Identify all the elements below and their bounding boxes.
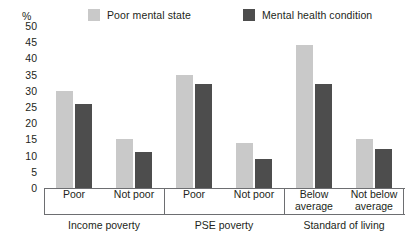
bar-0-0: [56, 91, 73, 188]
legend-label-1: Mental health condition: [262, 9, 372, 21]
group-label-1: PSE poverty: [164, 219, 284, 231]
legend-swatch-icon-1: [243, 9, 255, 21]
group-separator-1: [164, 188, 165, 215]
category-label-line1-1: Not poor: [104, 189, 164, 201]
bar-0-2: [176, 75, 193, 188]
x-axis-group-labels: Income povertyPSE povertyStandard of liv…: [44, 219, 405, 239]
x-axis-category-labels: PoorNot poorPoorNot poorBelowaverageNot …: [44, 189, 405, 215]
category-label-5: Not belowaverage: [344, 189, 404, 212]
bar-0-5: [356, 139, 373, 188]
bar-1-5: [375, 149, 392, 188]
legend-item-poor-mental-state: Poor mental state: [88, 9, 191, 21]
bar-0-1: [116, 139, 133, 188]
bar-1-2: [195, 84, 212, 188]
chart-legend: Poor mental state Mental health conditio…: [88, 9, 372, 21]
category-label-line1-5: Not below: [344, 189, 404, 201]
y-tick-label-10: 10: [25, 150, 37, 162]
category-label-line1-3: Not poor: [224, 189, 284, 201]
legend-item-mental-health-condition: Mental health condition: [243, 9, 372, 21]
y-tick-label-40: 40: [25, 52, 37, 64]
y-axis-tick-labels: 50454035302520151050: [0, 0, 44, 252]
legend-swatch-icon-0: [88, 9, 100, 21]
y-tick-label-5: 5: [31, 166, 37, 178]
bar-0-4: [296, 45, 313, 188]
y-tick-label-35: 35: [25, 69, 37, 81]
plot-area: [44, 26, 404, 188]
bar-1-1: [135, 152, 152, 188]
y-tick-label-30: 30: [25, 85, 37, 97]
category-label-4: Belowaverage: [284, 189, 344, 212]
bars-layer: [44, 26, 404, 188]
group-label-2: Standard of living: [284, 219, 404, 231]
y-tick-label-25: 25: [25, 101, 37, 113]
group-separator-2: [284, 188, 285, 215]
category-label-2: Poor: [164, 189, 224, 201]
y-tick-label-20: 20: [25, 117, 37, 129]
group-separator-0: [44, 188, 45, 215]
category-label-0: Poor: [44, 189, 104, 201]
category-label-line1-2: Poor: [164, 189, 224, 201]
category-label-line2-5: average: [344, 201, 404, 213]
bar-0-3: [236, 143, 253, 188]
bar-1-0: [75, 104, 92, 188]
y-tick-label-45: 45: [25, 36, 37, 48]
bar-chart: Poor mental state Mental health conditio…: [0, 0, 416, 252]
group-label-0: Income poverty: [44, 219, 164, 231]
bar-1-3: [255, 159, 272, 188]
y-tick-label-0: 0: [31, 182, 37, 194]
bar-1-4: [315, 84, 332, 188]
y-tick-label-50: 50: [25, 20, 37, 32]
category-label-3: Not poor: [224, 189, 284, 201]
legend-label-0: Poor mental state: [107, 9, 191, 21]
x-axis-line: [44, 188, 405, 189]
category-axis-underline: [44, 214, 405, 215]
category-label-line2-4: average: [284, 201, 344, 213]
category-label-line1-4: Below: [284, 189, 344, 201]
category-label-line1-0: Poor: [44, 189, 104, 201]
y-tick-label-15: 15: [25, 133, 37, 145]
group-separator-3: [403, 188, 404, 215]
category-label-1: Not poor: [104, 189, 164, 201]
